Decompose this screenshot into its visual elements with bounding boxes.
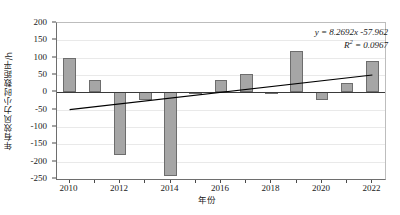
y-tick-label: 200 (34, 17, 48, 27)
x-axis-title: 年份 (0, 193, 400, 205)
x-tick-mark (346, 180, 347, 183)
y-tick-label: -150 (31, 138, 48, 148)
x-tick-label: 2016 (211, 183, 229, 193)
y-tick-label: -200 (31, 156, 48, 166)
y-axis: 200150100500-50-100-150-200-250 (0, 22, 56, 180)
x-tick-mark (296, 180, 297, 183)
x-tick-mark (245, 180, 246, 183)
x-axis-title-label: 年份 (198, 195, 216, 205)
y-tick-label: 0 (43, 86, 48, 96)
r-squared-value: = 0.0967 (355, 40, 388, 50)
x-tick-mark (94, 180, 95, 183)
regression-equation: y = 8.2692x -57.962 (315, 26, 388, 38)
trendline-segment (70, 75, 373, 110)
y-tick-label: -250 (31, 173, 48, 183)
x-tick-label: 2018 (261, 183, 279, 193)
y-tick-label: 50 (38, 69, 47, 79)
y-tick-label: 100 (34, 52, 48, 62)
x-tick-mark (195, 180, 196, 183)
x-tick-label: 2010 (60, 183, 78, 193)
y-tick-label: -100 (31, 121, 48, 131)
x-tick-mark (144, 180, 145, 183)
r-squared-exponent: 2 (349, 38, 352, 45)
x-tick-label: 2014 (161, 183, 179, 193)
y-tick-label: -50 (35, 104, 47, 114)
x-tick-label: 2020 (312, 183, 330, 193)
x-tick-label: 2012 (110, 183, 128, 193)
x-axis: 2010201220142016201820202022 (56, 180, 386, 192)
regression-annotation: y = 8.2692x -57.962 R2 = 0.0967 (315, 26, 388, 51)
regression-r-squared: R2 = 0.0967 (315, 38, 388, 51)
y-tick-label: 150 (34, 34, 48, 44)
x-tick-label: 2022 (362, 183, 380, 193)
wind-hours-anomaly-bar-chart: 年有效风力小时数距平/h 200150100500-50-100-150-200… (0, 0, 400, 215)
